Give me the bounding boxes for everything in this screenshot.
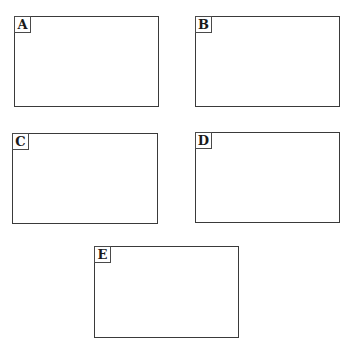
panel-b-label: B	[195, 16, 212, 33]
panel-b: B	[195, 16, 340, 107]
panel-a-label: A	[14, 16, 31, 33]
panel-c-label: C	[12, 133, 29, 150]
panel-c: C	[12, 133, 158, 224]
panel-a: A	[14, 16, 159, 107]
panel-d: D	[195, 132, 340, 223]
panel-e-label: E	[94, 246, 111, 263]
panel-d-label: D	[195, 132, 212, 149]
panel-e: E	[94, 246, 239, 338]
